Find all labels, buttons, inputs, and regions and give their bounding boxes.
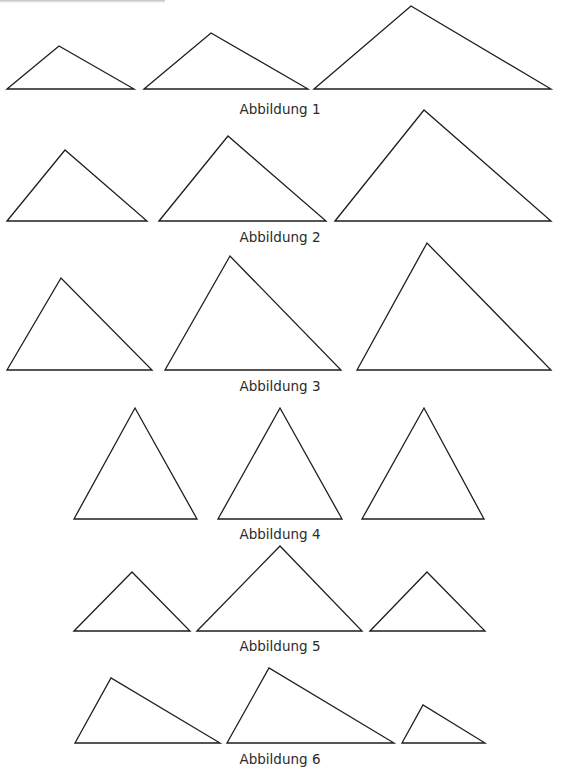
triangle-1-2 [144,33,308,89]
triangle-6-2 [227,668,394,743]
triangle-4-2 [218,408,342,519]
figure-6 [75,668,485,743]
figure-label-4: Abbildung 4 [239,526,320,542]
figure-4 [74,408,484,519]
triangle-2-3 [335,110,551,221]
triangle-2-2 [159,136,326,221]
triangle-3-1 [7,278,152,370]
figure-label-6: Abbildung 6 [239,751,320,767]
triangle-1-1 [7,46,134,89]
figure-1 [7,6,551,89]
figure-label-5: Abbildung 5 [239,638,320,654]
figure-3 [7,243,551,370]
figure-label-2: Abbildung 2 [239,229,320,245]
triangle-5-3 [370,572,485,631]
triangle-1-3 [314,6,551,89]
triangle-5-2 [197,546,362,631]
triangle-5-1 [74,572,190,631]
triangle-6-1 [75,678,220,743]
figure-2 [7,110,551,221]
triangle-4-3 [362,408,484,519]
figure-label-1: Abbildung 1 [239,101,320,117]
triangle-3-2 [165,256,341,370]
triangle-2-1 [7,150,147,221]
triangle-3-3 [357,243,551,370]
triangle-6-3 [402,705,485,743]
triangle-4-1 [74,408,197,519]
figure-label-3: Abbildung 3 [239,378,320,394]
figure-5 [74,546,485,631]
